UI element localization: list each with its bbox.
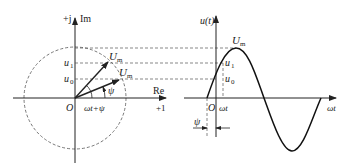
angle-arc-psi [103, 87, 105, 98]
u1-sub: 1 [70, 62, 74, 70]
peak-sub: m [240, 40, 246, 48]
u1-label: u [64, 57, 69, 68]
vector-label-2-sub: m [127, 72, 133, 80]
wave-u0-label: u [225, 73, 230, 84]
imag-axis-label: Im [80, 13, 91, 24]
imag-axis-label-j: +j [63, 13, 71, 24]
real-axis-unit: +1 [156, 103, 166, 113]
wave-psi-label: ψ [194, 116, 201, 127]
origin-label: O [66, 102, 73, 113]
real-axis-label: Re [153, 85, 165, 96]
angle-psi-label: ψ [108, 85, 115, 96]
angle-arc-wt-plus-psi [86, 85, 92, 98]
u0-sub: 0 [70, 78, 74, 86]
time-axis-label: ωt [327, 103, 336, 113]
vector-label-1-sub: m [117, 56, 123, 64]
u0-label: u [64, 73, 69, 84]
phasor-waveform-figure: +j Im Re +1 O U m U m u 1 u 0 ψ ωt+ψ u(t… [0, 0, 349, 167]
angle-total-label: ωt+ψ [84, 103, 105, 113]
wave-origin-label: O [208, 102, 215, 113]
u-axis-label: u(t) [200, 15, 215, 27]
phasor-diagram: +j Im Re +1 O U m U m u 1 u 0 ψ ωt+ψ [13, 13, 236, 163]
wave-wt-label: ωt [219, 103, 228, 113]
wave-u0-sub: 0 [231, 78, 235, 86]
wave-u1-label: u [225, 57, 230, 68]
wave-u1-sub: 1 [231, 62, 235, 70]
waveform-chart: u(t) ωt U m u 1 u 0 O ωt ψ [184, 15, 336, 151]
